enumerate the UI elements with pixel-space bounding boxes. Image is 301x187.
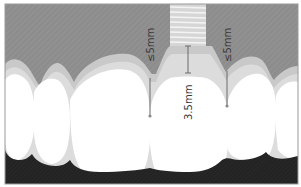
implant: [170, 4, 206, 46]
left-gap-label: ≤5mm: [145, 28, 156, 62]
right-gap-label: ≤5mm: [222, 28, 233, 62]
implant-depth-label: 3.5mm: [183, 85, 194, 120]
tooth-left-lateral: [34, 79, 70, 165]
tooth-far-right: [275, 82, 298, 158]
tooth-left-central: [70, 69, 151, 177]
dental-implant-diagram: ≤5mm 3.5mm ≤5mm: [0, 0, 301, 187]
diagram-canvas: ≤5mm 3.5mm ≤5mm: [0, 0, 301, 187]
